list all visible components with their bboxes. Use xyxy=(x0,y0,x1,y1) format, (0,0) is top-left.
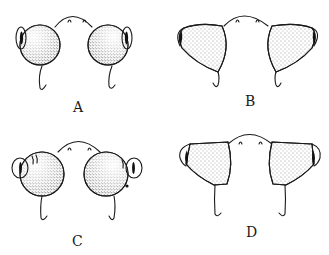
antenna-mark xyxy=(88,148,91,150)
antenna-mark xyxy=(68,20,71,22)
pupil-icon xyxy=(125,32,128,45)
hook-stalk xyxy=(41,196,47,220)
pupil-icon xyxy=(132,162,135,174)
head-arc xyxy=(224,16,268,26)
pupil-icon xyxy=(19,162,22,174)
panel-label-a: A xyxy=(72,99,84,115)
head-arc xyxy=(58,142,100,153)
pupil-icon xyxy=(20,32,23,45)
antenna-mark xyxy=(236,20,239,22)
left-eye xyxy=(12,152,64,196)
antenna-mark xyxy=(68,148,71,150)
right-eye xyxy=(84,152,142,196)
antenna-mark xyxy=(239,142,242,144)
figure-canvas: A B xyxy=(0,0,329,255)
panel-label-c: C xyxy=(72,233,83,249)
hook-stalk xyxy=(213,72,219,87)
hook-stalk xyxy=(275,72,281,87)
panel-a: A xyxy=(16,17,132,116)
left-eye xyxy=(180,142,231,185)
panel-label-b: B xyxy=(245,93,255,109)
left-eye xyxy=(16,25,60,65)
hook-stalk xyxy=(109,196,115,220)
right-eye xyxy=(88,25,132,65)
panel-b: B xyxy=(178,16,318,109)
panel-c: C xyxy=(12,142,142,250)
head-arc xyxy=(228,135,272,145)
hook-stalk xyxy=(279,185,286,216)
panel-d: D xyxy=(180,135,321,241)
hook-stalk xyxy=(39,66,46,89)
hook-stalk xyxy=(109,66,115,88)
eye-diagram: A B xyxy=(0,0,329,255)
antenna-mark xyxy=(259,142,262,144)
left-eye xyxy=(178,24,226,72)
right-eye xyxy=(268,24,318,72)
hook-stalk xyxy=(215,185,222,216)
right-eye xyxy=(269,142,320,185)
antenna-mark xyxy=(256,20,259,22)
panel-label-d: D xyxy=(246,224,257,240)
